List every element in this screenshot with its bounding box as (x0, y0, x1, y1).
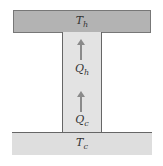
upward-arrow-icon (80, 96, 82, 112)
hot-reservoir-label: Th (76, 14, 89, 29)
cold-reservoir-label: Tc (76, 136, 88, 151)
hot-reservoir: Th (13, 10, 151, 33)
upward-arrow-icon (80, 44, 82, 60)
heat-flow-label-c: Qc (62, 113, 102, 128)
cold-reservoir: Tc (12, 132, 152, 155)
heat-flow-label-h: Qh (62, 62, 102, 77)
